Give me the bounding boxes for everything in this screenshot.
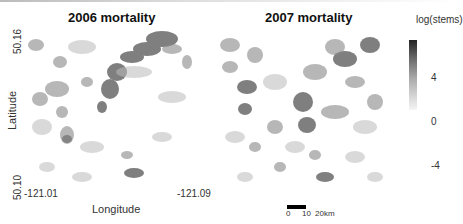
legend-title: log(stems) [416, 14, 463, 25]
y-axis-label: Latitude [6, 91, 18, 130]
legend-colorbar [409, 40, 417, 110]
x-tick-right: -121.09 [177, 188, 211, 199]
x-axis-label: Longitude [92, 203, 140, 215]
x-tick-left: -121.01 [24, 188, 58, 199]
legend-tick-4: 4 [431, 72, 437, 83]
panel-title-2007: 2007 mortality [265, 10, 352, 25]
legend-tick-neg4: -4 [431, 160, 440, 171]
mortality-raster-2006 [22, 27, 202, 195]
scale-label-10: 10 [302, 209, 311, 218]
legend-tick-0: 0 [431, 116, 437, 127]
mortality-raster-2007 [215, 27, 395, 195]
scale-label-20km: 20km [315, 209, 335, 218]
scale-label-0: 0 [286, 209, 290, 218]
map-2006 [22, 27, 202, 195]
panel-title-2006: 2006 mortality [68, 10, 155, 25]
top-border [0, 0, 459, 2]
map-2007 [215, 27, 395, 195]
